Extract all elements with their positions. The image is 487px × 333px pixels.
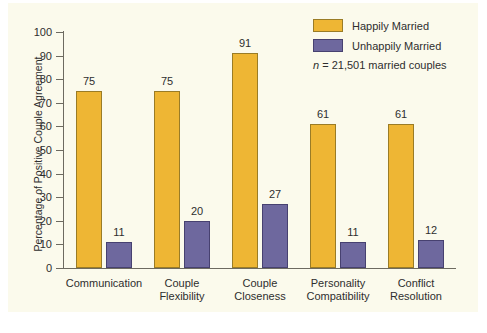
legend-item-happily-married: Happily Married	[313, 18, 473, 33]
legend: Happily Married Unhappily Married n = 21…	[313, 18, 473, 71]
bar	[262, 204, 288, 268]
bar-value-label: 61	[381, 109, 421, 120]
bar-value-label: 27	[255, 189, 295, 200]
y-axis-tick-label: 0	[12, 263, 52, 274]
sample-size-text: = 21,501 married couples	[319, 59, 447, 71]
y-axis-tick	[56, 244, 63, 245]
x-axis-line	[63, 268, 456, 269]
bar	[418, 240, 444, 268]
y-axis-line	[63, 31, 64, 269]
figure: Percentage of Positive Couple Agreement …	[0, 0, 487, 333]
bar	[76, 91, 102, 268]
y-axis-tick-label: 30	[12, 192, 52, 203]
bar-value-label: 61	[303, 109, 343, 120]
bar-value-label: 75	[69, 76, 109, 87]
y-axis-tick-label: 80	[12, 74, 52, 85]
category-label-line: Resolution	[361, 290, 471, 303]
legend-label-unhappily-married: Unhappily Married	[352, 40, 441, 52]
bar	[232, 53, 258, 268]
y-axis-tick	[56, 221, 63, 222]
y-axis-tick-label: 100	[12, 27, 52, 38]
y-axis-tick-label: 20	[12, 216, 52, 227]
bar-value-label: 11	[333, 227, 373, 238]
bar	[184, 221, 210, 268]
category-label-line: Conflict	[361, 277, 471, 290]
y-axis-tick	[56, 32, 63, 33]
bar	[388, 124, 414, 268]
y-axis-tick-label: 50	[12, 145, 52, 156]
sample-size-annotation: n = 21,501 married couples	[313, 59, 473, 71]
legend-label-happily-married: Happily Married	[352, 20, 429, 32]
y-axis-tick-label: 60	[12, 121, 52, 132]
bar	[106, 242, 132, 268]
x-axis-category-label: ConflictResolution	[361, 277, 471, 303]
y-axis-tick-label: 90	[12, 51, 52, 62]
bar	[154, 91, 180, 268]
legend-swatch-unhappily-married	[313, 39, 343, 52]
bar-value-label: 91	[225, 38, 265, 49]
y-axis-tick	[56, 56, 63, 57]
bar-value-label: 75	[147, 76, 187, 87]
bar-value-label: 20	[177, 206, 217, 217]
y-axis-tick	[56, 126, 63, 127]
y-axis-tick-label: 70	[12, 98, 52, 109]
y-axis-tick	[56, 174, 63, 175]
y-axis-tick	[56, 268, 63, 269]
y-axis-tick	[56, 150, 63, 151]
bar	[340, 242, 366, 268]
y-axis-tick	[56, 79, 63, 80]
legend-swatch-happily-married	[313, 19, 343, 32]
y-axis-tick-label: 40	[12, 169, 52, 180]
y-axis-tick	[56, 197, 63, 198]
bar-value-label: 11	[99, 227, 139, 238]
bar-value-label: 12	[411, 225, 451, 236]
bar	[310, 124, 336, 268]
y-axis-tick	[56, 103, 63, 104]
plot-area: Percentage of Positive Couple Agreement …	[0, 0, 487, 333]
legend-item-unhappily-married: Unhappily Married	[313, 38, 473, 53]
y-axis-tick-label: 10	[12, 239, 52, 250]
